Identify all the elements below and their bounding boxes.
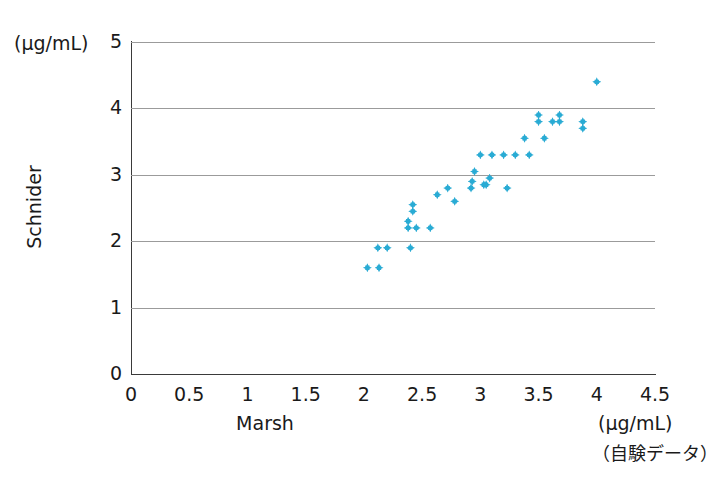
x-tick-label-0: 0 [125, 383, 137, 405]
data-point [499, 150, 508, 159]
scatter-chart: (μg/mL) Schnider 012345 00.511.522.533.5… [0, 0, 715, 490]
data-point [468, 177, 477, 186]
data-point [520, 134, 529, 143]
data-point [433, 190, 442, 199]
x-tick-label-4: 4 [591, 383, 603, 405]
source-note: （自験データ） [592, 443, 715, 465]
data-point [525, 150, 534, 159]
y-tick-label-1: 1 [96, 298, 122, 317]
x-tick-label-3: 3 [474, 383, 486, 405]
y-tick-label-4: 4 [96, 98, 122, 117]
data-point [450, 197, 459, 206]
data-point [578, 117, 587, 126]
x-tick-label-3.5: 3.5 [523, 383, 553, 405]
gridline-y-5 [131, 42, 655, 43]
data-point [511, 150, 520, 159]
y-axis-unit-text: (μg/mL) [14, 32, 88, 54]
data-point [592, 77, 601, 86]
data-point [408, 200, 417, 209]
data-point [412, 223, 421, 232]
data-point [375, 263, 384, 272]
data-point [363, 263, 372, 272]
data-point [383, 243, 392, 252]
x-tick-label-0.5: 0.5 [174, 383, 204, 405]
y-tick-label-2: 2 [96, 231, 122, 250]
y-axis-unit-label: (μg/mL) [14, 32, 88, 54]
data-point [443, 184, 452, 193]
gridline-y-1 [131, 308, 655, 309]
data-point [426, 223, 435, 232]
x-axis-unit-label: (μg/mL) [598, 412, 672, 434]
x-axis-line [131, 374, 656, 375]
data-point [555, 111, 564, 120]
x-axis-tick-labels: 00.511.522.533.544.5 [0, 383, 715, 409]
data-point [406, 243, 415, 252]
data-point [534, 111, 543, 120]
gridline-y-4 [131, 108, 655, 109]
y-tick-label-5: 5 [96, 32, 122, 51]
data-point [404, 217, 413, 226]
gridline-y-2 [131, 241, 655, 242]
x-tick-label-1: 1 [241, 383, 253, 405]
data-point [467, 184, 476, 193]
x-tick-label-2: 2 [358, 383, 370, 405]
x-tick-label-4.5: 4.5 [640, 383, 670, 405]
gridline-y-3 [131, 175, 655, 176]
y-axis-title: Schnider [23, 147, 45, 267]
data-point [476, 150, 485, 159]
x-tick-label-2.5: 2.5 [407, 383, 437, 405]
data-point [503, 184, 512, 193]
data-point [487, 150, 496, 159]
y-tick-label-0: 0 [96, 364, 122, 383]
data-point [540, 134, 549, 143]
data-point [373, 243, 382, 252]
x-axis-title: Marsh [0, 412, 530, 434]
y-tick-label-3: 3 [96, 165, 122, 184]
plot-area [131, 42, 655, 374]
x-tick-label-1.5: 1.5 [291, 383, 321, 405]
